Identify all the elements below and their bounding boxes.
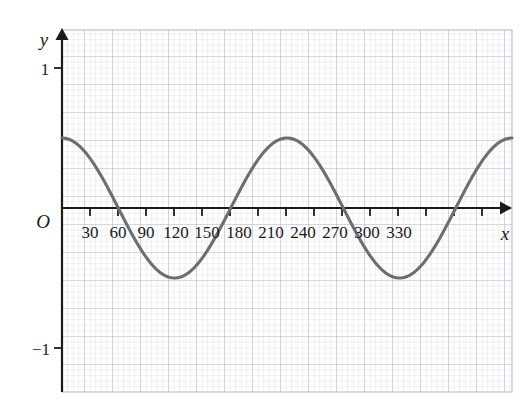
y-tick-label: −1 bbox=[32, 340, 50, 359]
x-axis-label: x bbox=[500, 223, 510, 244]
x-tick-label: 150 bbox=[194, 223, 220, 242]
x-tick-label: 270 bbox=[322, 223, 348, 242]
x-tick-label: 120 bbox=[163, 223, 189, 242]
x-tick-label: 330 bbox=[386, 223, 412, 242]
x-tick-label: 180 bbox=[226, 223, 252, 242]
x-tick-label: 60 bbox=[110, 223, 127, 242]
x-tick-label: 210 bbox=[258, 223, 284, 242]
y-tick-labels: 1 −1 bbox=[32, 60, 50, 359]
y-axis-label: y bbox=[38, 29, 49, 50]
y-axis-ticks bbox=[54, 68, 62, 348]
x-tick-label: 30 bbox=[82, 223, 99, 242]
y-tick-label: 1 bbox=[41, 60, 50, 79]
trig-graph-plot: 30 60 90 120 150 180 210 240 270 300 330… bbox=[0, 0, 530, 415]
x-tick-label: 300 bbox=[354, 223, 380, 242]
origin-label: O bbox=[36, 211, 50, 232]
grid-area bbox=[62, 30, 512, 392]
chart-figure: 30 60 90 120 150 180 210 240 270 300 330… bbox=[0, 0, 530, 415]
x-tick-label: 240 bbox=[290, 223, 316, 242]
x-tick-label: 90 bbox=[138, 223, 155, 242]
